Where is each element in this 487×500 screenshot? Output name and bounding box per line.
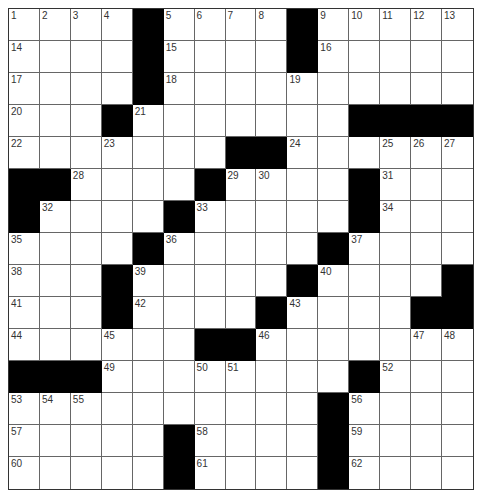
grid-cell[interactable]: 53 <box>9 393 40 425</box>
grid-cell[interactable]: 19 <box>287 73 318 105</box>
grid-cell[interactable]: 61 <box>195 457 226 489</box>
grid-cell[interactable] <box>287 393 318 425</box>
grid-cell[interactable] <box>349 297 380 329</box>
grid-cell[interactable] <box>380 265 411 297</box>
grid-cell[interactable] <box>40 457 71 489</box>
grid-cell[interactable]: 47 <box>411 329 442 361</box>
grid-cell[interactable] <box>195 393 226 425</box>
grid-cell[interactable] <box>133 457 164 489</box>
grid-cell[interactable]: 55 <box>71 393 102 425</box>
grid-cell[interactable]: 54 <box>40 393 71 425</box>
grid-cell[interactable]: 44 <box>9 329 40 361</box>
grid-cell[interactable] <box>380 297 411 329</box>
grid-cell[interactable]: 28 <box>71 169 102 201</box>
grid-cell[interactable] <box>133 169 164 201</box>
grid-cell[interactable]: 37 <box>349 233 380 265</box>
grid-cell[interactable] <box>256 201 287 233</box>
grid-cell[interactable]: 35 <box>9 233 40 265</box>
grid-cell[interactable]: 7 <box>226 9 257 41</box>
grid-cell[interactable] <box>71 105 102 137</box>
grid-cell[interactable] <box>442 361 473 393</box>
grid-cell[interactable] <box>442 169 473 201</box>
grid-cell[interactable] <box>226 41 257 73</box>
grid-cell[interactable] <box>133 137 164 169</box>
grid-cell[interactable] <box>287 233 318 265</box>
grid-cell[interactable]: 27 <box>442 137 473 169</box>
grid-cell[interactable] <box>226 73 257 105</box>
grid-cell[interactable] <box>195 233 226 265</box>
grid-cell[interactable]: 59 <box>349 425 380 457</box>
grid-cell[interactable] <box>256 265 287 297</box>
grid-cell[interactable] <box>318 105 349 137</box>
grid-cell[interactable] <box>71 425 102 457</box>
grid-cell[interactable] <box>164 361 195 393</box>
grid-cell[interactable] <box>133 361 164 393</box>
grid-cell[interactable] <box>40 137 71 169</box>
grid-cell[interactable] <box>411 233 442 265</box>
grid-cell[interactable] <box>102 233 133 265</box>
grid-cell[interactable]: 32 <box>40 201 71 233</box>
grid-cell[interactable] <box>318 329 349 361</box>
grid-cell[interactable] <box>411 169 442 201</box>
grid-cell[interactable] <box>133 201 164 233</box>
grid-cell[interactable] <box>226 265 257 297</box>
grid-cell[interactable]: 46 <box>256 329 287 361</box>
grid-cell[interactable] <box>380 73 411 105</box>
grid-cell[interactable]: 3 <box>71 9 102 41</box>
grid-cell[interactable] <box>226 393 257 425</box>
grid-cell[interactable] <box>195 41 226 73</box>
grid-cell[interactable] <box>256 361 287 393</box>
grid-cell[interactable] <box>349 265 380 297</box>
grid-cell[interactable] <box>318 297 349 329</box>
grid-cell[interactable] <box>164 137 195 169</box>
grid-cell[interactable] <box>287 201 318 233</box>
grid-cell[interactable]: 25 <box>380 137 411 169</box>
grid-cell[interactable] <box>102 393 133 425</box>
grid-cell[interactable] <box>40 425 71 457</box>
grid-cell[interactable]: 34 <box>380 201 411 233</box>
grid-cell[interactable] <box>226 233 257 265</box>
grid-cell[interactable] <box>349 137 380 169</box>
grid-cell[interactable] <box>442 425 473 457</box>
grid-cell[interactable]: 29 <box>226 169 257 201</box>
grid-cell[interactable] <box>40 73 71 105</box>
grid-cell[interactable] <box>256 73 287 105</box>
grid-cell[interactable] <box>102 41 133 73</box>
grid-cell[interactable] <box>71 457 102 489</box>
grid-cell[interactable] <box>71 265 102 297</box>
grid-cell[interactable] <box>442 233 473 265</box>
grid-cell[interactable] <box>40 105 71 137</box>
grid-cell[interactable] <box>40 297 71 329</box>
grid-cell[interactable] <box>442 73 473 105</box>
grid-cell[interactable] <box>287 361 318 393</box>
grid-cell[interactable] <box>226 425 257 457</box>
grid-cell[interactable]: 48 <box>442 329 473 361</box>
grid-cell[interactable]: 20 <box>9 105 40 137</box>
grid-cell[interactable]: 11 <box>380 9 411 41</box>
grid-cell[interactable]: 13 <box>442 9 473 41</box>
grid-cell[interactable] <box>442 457 473 489</box>
grid-cell[interactable] <box>226 297 257 329</box>
grid-cell[interactable]: 2 <box>40 9 71 41</box>
grid-cell[interactable] <box>256 41 287 73</box>
grid-cell[interactable] <box>102 457 133 489</box>
grid-cell[interactable]: 17 <box>9 73 40 105</box>
grid-cell[interactable] <box>349 329 380 361</box>
grid-cell[interactable] <box>318 361 349 393</box>
grid-cell[interactable] <box>256 457 287 489</box>
grid-cell[interactable]: 43 <box>287 297 318 329</box>
grid-cell[interactable] <box>102 169 133 201</box>
grid-cell[interactable] <box>411 265 442 297</box>
grid-cell[interactable]: 50 <box>195 361 226 393</box>
grid-cell[interactable]: 51 <box>226 361 257 393</box>
grid-cell[interactable] <box>380 233 411 265</box>
grid-cell[interactable] <box>380 393 411 425</box>
grid-cell[interactable] <box>411 73 442 105</box>
grid-cell[interactable] <box>349 73 380 105</box>
grid-cell[interactable] <box>318 201 349 233</box>
grid-cell[interactable]: 33 <box>195 201 226 233</box>
grid-cell[interactable] <box>164 297 195 329</box>
grid-cell[interactable] <box>256 105 287 137</box>
grid-cell[interactable]: 45 <box>102 329 133 361</box>
grid-cell[interactable] <box>442 393 473 425</box>
